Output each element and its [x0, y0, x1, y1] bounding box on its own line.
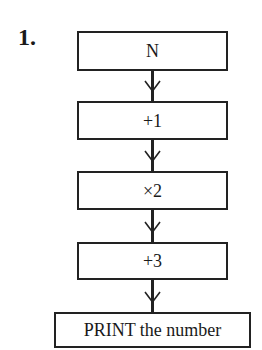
- step-label: N: [146, 42, 159, 60]
- step-label: ×2: [143, 182, 162, 200]
- down-arrow-icon: [144, 150, 161, 162]
- down-arrow-icon: [144, 80, 161, 92]
- down-arrow-icon: [144, 291, 161, 303]
- step-label: +1: [143, 112, 162, 130]
- down-arrow-icon: [144, 221, 161, 233]
- step-label: PRINT the number: [84, 321, 222, 339]
- step-label: +3: [143, 252, 162, 270]
- flowchart-step-print: PRINT the number: [54, 312, 251, 348]
- flowchart-step-add-one: +1: [77, 101, 228, 140]
- flowchart-step-add-three: +3: [77, 242, 228, 280]
- flowchart-step-multiply-two: ×2: [77, 171, 228, 210]
- flowchart-step-start: N: [77, 31, 228, 71]
- question-number: 1.: [18, 24, 36, 50]
